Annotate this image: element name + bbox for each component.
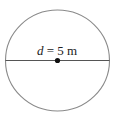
equals-sign: = (43, 43, 57, 58)
diameter-value: 5 m (57, 43, 77, 58)
center-point (55, 58, 60, 63)
diameter-label: d = 5 m (37, 43, 77, 58)
circle-diagram: d = 5 m (0, 0, 120, 114)
